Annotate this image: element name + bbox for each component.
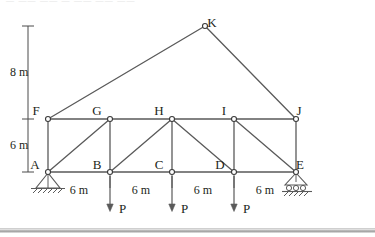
load-label-C: P xyxy=(181,201,188,216)
truss-svg: PPP 8 m6 m 6 m6 m6 m6 m ABCDEFGHIJK xyxy=(0,0,375,237)
span-dimension-label-3: 6 m xyxy=(256,183,275,197)
node-C xyxy=(170,170,175,175)
member-KJ xyxy=(205,26,296,119)
roller-support-e xyxy=(282,173,312,196)
truss-diagram: PPP 8 m6 m 6 m6 m6 m6 m ABCDEFGHIJK xyxy=(0,0,375,237)
applied-loads: PPP xyxy=(107,176,250,216)
vertical-dimensions: 8 m6 m xyxy=(10,26,34,172)
load-arrow-head-D xyxy=(231,204,237,212)
member-FK xyxy=(48,26,205,119)
node-label-J: J xyxy=(296,103,301,118)
node-I xyxy=(232,117,237,122)
load-label-D: P xyxy=(243,201,250,216)
load-arrow-head-C xyxy=(169,204,175,212)
vertical-dimension-label-0: 8 m xyxy=(10,65,29,79)
span-dimension-label-0: 6 m xyxy=(70,183,89,197)
node-B xyxy=(108,170,113,175)
node-label-E: E xyxy=(296,157,304,172)
truss-node-labels: ABCDEFGHIJK xyxy=(30,15,304,172)
node-label-H: H xyxy=(154,103,163,118)
node-F xyxy=(46,117,51,122)
node-label-B: B xyxy=(93,157,102,172)
bottom-divider-rule xyxy=(0,228,375,233)
node-label-C: C xyxy=(155,157,164,172)
vertical-dimension-label-1: 6 m xyxy=(10,138,29,152)
node-label-D: D xyxy=(215,157,224,172)
node-D xyxy=(232,170,237,175)
span-dimension-label-2: 6 m xyxy=(194,183,213,197)
node-label-G: G xyxy=(92,103,101,118)
span-dimension-label-1: 6 m xyxy=(132,183,151,197)
node-label-I: I xyxy=(222,103,226,118)
node-label-A: A xyxy=(30,157,40,172)
truss-members xyxy=(48,26,296,172)
node-label-F: F xyxy=(32,103,39,118)
load-arrow-head-B xyxy=(107,204,113,212)
member-IE xyxy=(234,119,296,172)
load-label-B: P xyxy=(119,201,126,216)
node-H xyxy=(170,117,175,122)
node-label-K: K xyxy=(207,15,217,30)
node-G xyxy=(108,117,113,122)
node-A xyxy=(46,170,51,175)
